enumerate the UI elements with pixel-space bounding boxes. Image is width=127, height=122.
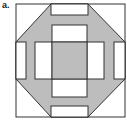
inner-top-rect: [52, 25, 87, 42]
inner-left-rect: [35, 42, 52, 79]
right-edge-rect: [114, 42, 125, 79]
inner-bottom-rect: [52, 79, 87, 97]
center-square: [52, 42, 87, 79]
left-edge-rect: [16, 42, 26, 79]
inner-right-rect: [87, 42, 104, 79]
top-edge-rect: [51, 4, 88, 15]
quilt-block-diagram: [0, 0, 127, 122]
bottom-edge-rect: [51, 106, 88, 117]
